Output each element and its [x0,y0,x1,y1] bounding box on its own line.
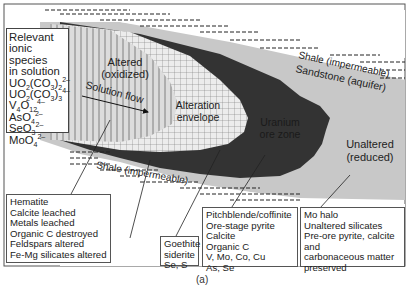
altered-label: Altered [108,56,143,68]
figure-caption: (a) [196,274,208,285]
species-molybdate: MoO42– [9,135,66,146]
envelope-label: envelope [177,111,220,123]
box-line: Pitchblende/coffinite [206,210,294,221]
ore-zone-label-2: ore zone [260,128,301,140]
box-line: Mo halo [304,210,401,221]
box-line: As, Se [206,263,294,274]
box-line: Fe-Mg silicates altered [10,250,107,261]
box-line: Hematite [10,197,107,208]
reduced-label: (reduced) [346,151,393,163]
box-line: Goethite [164,239,195,250]
unaltered-zone-mineralogy-box: Mo halo Unaltered silicates Pre-ore pyri… [300,207,405,267]
alteration-label: Alteration [176,99,221,111]
ore-zone-label-1: Uranium [260,116,300,128]
ore-zone-mineralogy-box: Pitchblende/coffinite Ore-stage pyrite C… [202,207,298,267]
oxidized-label: (oxidized) [101,68,149,80]
altered-zone-mineralogy-box: Hematite Calcite leached Metals leached … [6,194,111,263]
unaltered-label: Unaltered [346,138,394,150]
box-line: Se, S [164,260,195,271]
ionic-species-box: Relevant ionic species in solution UO2(C… [6,28,69,133]
alteration-envelope-mineralogy-box: Goethite siderite Se, S [160,236,199,266]
box-line: preserved [304,263,401,274]
